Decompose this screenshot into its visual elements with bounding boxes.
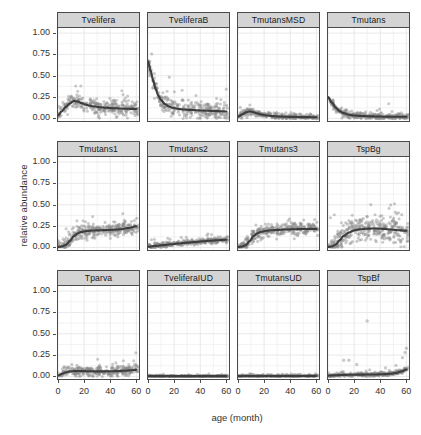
facet-plot-area bbox=[147, 28, 230, 122]
y-axis-tick-mark bbox=[53, 291, 56, 292]
x-axis-tick-mark bbox=[380, 380, 381, 383]
facet-strip-label: Tmutans2 bbox=[169, 144, 208, 154]
y-axis-tick-mark bbox=[53, 54, 56, 55]
facet-plot-area bbox=[237, 286, 320, 380]
scatter-points bbox=[328, 202, 409, 249]
facet-strip-label: TspBg bbox=[356, 144, 380, 154]
facet-strip-label: Tmutans bbox=[351, 15, 385, 25]
facet-strip-label: TmutansUD bbox=[255, 273, 302, 283]
x-axis-tick-label: 0 bbox=[137, 386, 159, 396]
y-axis-tick-mark bbox=[53, 334, 56, 335]
y-axis-tick-label: 0.00 bbox=[10, 242, 50, 251]
y-axis-tick-label: 0.25 bbox=[10, 221, 50, 230]
facet-plot-area bbox=[57, 28, 140, 122]
x-axis-tick-label: 40 bbox=[189, 386, 211, 396]
x-axis-tick-label: 40 bbox=[279, 386, 301, 396]
y-axis-tick-label: 1.00 bbox=[10, 157, 50, 166]
x-axis-tick-label: 0 bbox=[317, 386, 339, 396]
facet-panel-tmutans3: Tmutans3 bbox=[237, 141, 320, 251]
facet-strip-tmutans1: Tmutans1 bbox=[57, 141, 140, 157]
y-axis-tick-mark bbox=[53, 226, 56, 227]
x-axis-column-2: 0204060 bbox=[237, 380, 320, 400]
facet-panel-tspbf: TspBf bbox=[327, 270, 410, 380]
facet-strip-label: TveliferaB bbox=[169, 15, 209, 25]
facet-plot-area bbox=[57, 286, 140, 380]
scatter-points bbox=[58, 84, 139, 119]
facet-panel-tmutans1: Tmutans1 bbox=[57, 141, 140, 251]
facet-panel-tveliferab: TveliferaB bbox=[147, 12, 230, 122]
facet-plot-area bbox=[327, 28, 410, 122]
y-axis-tick-label: 0.00 bbox=[10, 371, 50, 380]
x-axis-tick-mark bbox=[354, 380, 355, 383]
facet-strip-tmutans2: Tmutans2 bbox=[147, 141, 230, 157]
facet-strip-tspbg: TspBg bbox=[327, 141, 410, 157]
x-axis-tick-mark bbox=[58, 380, 59, 383]
x-axis-tick-mark bbox=[406, 380, 407, 383]
x-axis-column-1: 0204060 bbox=[147, 380, 230, 400]
facet-strip-tveliferab: TveliferaB bbox=[147, 12, 230, 28]
y-axis-tick-label: 0.25 bbox=[10, 350, 50, 359]
x-axis-tick-label: 0 bbox=[47, 386, 69, 396]
y-axis-tick-label: 1.00 bbox=[10, 28, 50, 37]
facet-plot-area bbox=[327, 286, 410, 380]
facet-panel-tmutansmsd: TmutansMSD bbox=[237, 12, 320, 122]
facet-strip-label: Tvelifera bbox=[82, 15, 116, 25]
x-axis-tick-label: 20 bbox=[163, 386, 185, 396]
y-axis-tick-mark bbox=[53, 33, 56, 34]
y-axis-tick-mark bbox=[53, 355, 56, 356]
y-axis-tick-mark bbox=[53, 183, 56, 184]
x-axis-title: age (month) bbox=[57, 412, 417, 423]
facet-panel-tveliferaiud: TveliferaIUD bbox=[147, 270, 230, 380]
y-axis-tick-mark bbox=[53, 162, 56, 163]
facet-scatter-figure: relative abundance age (month) 0.000.250… bbox=[0, 0, 421, 435]
y-axis-tick-label: 0.25 bbox=[10, 92, 50, 101]
x-axis-tick-mark bbox=[290, 380, 291, 383]
x-axis-tick-label: 40 bbox=[99, 386, 121, 396]
scatter-points bbox=[328, 319, 409, 378]
facet-panel-tparva: Tparva bbox=[57, 270, 140, 380]
y-axis-tick-mark bbox=[53, 247, 56, 248]
y-axis-tick-label: 0.75 bbox=[10, 178, 50, 187]
facet-strip-label: Tmutans3 bbox=[259, 144, 298, 154]
facet-strip-tspbf: TspBf bbox=[327, 270, 410, 286]
x-axis-tick-mark bbox=[238, 380, 239, 383]
facet-plot-area bbox=[57, 157, 140, 251]
facet-plot-area bbox=[327, 157, 410, 251]
y-axis-tick-mark bbox=[53, 97, 56, 98]
x-axis-column-3: 0204060 bbox=[327, 380, 410, 400]
facet-strip-label: TmutansMSD bbox=[252, 15, 306, 25]
x-axis-tick-label: 20 bbox=[253, 386, 275, 396]
y-axis-tick-mark bbox=[53, 76, 56, 77]
x-axis-tick-mark bbox=[84, 380, 85, 383]
facet-strip-label: Tparva bbox=[85, 273, 112, 283]
facet-strip-label: TveliferaIUD bbox=[164, 273, 213, 283]
y-axis-tick-label: 0.00 bbox=[10, 113, 50, 122]
facet-strip-tmutansmsd: TmutansMSD bbox=[237, 12, 320, 28]
x-axis-tick-mark bbox=[328, 380, 329, 383]
scatter-points bbox=[238, 217, 319, 249]
facet-plot-area bbox=[237, 157, 320, 251]
facet-plot-area bbox=[147, 157, 230, 251]
x-axis-tick-mark bbox=[316, 380, 317, 383]
facet-panel-tmutans: Tmutans bbox=[327, 12, 410, 122]
y-axis-tick-label: 0.75 bbox=[10, 307, 50, 316]
facet-strip-tmutans: Tmutans bbox=[327, 12, 410, 28]
x-axis-tick-label: 20 bbox=[73, 386, 95, 396]
facet-strip-tmutans3: Tmutans3 bbox=[237, 141, 320, 157]
x-axis-tick-mark bbox=[264, 380, 265, 383]
facet-plot-area bbox=[237, 28, 320, 122]
x-axis-tick-mark bbox=[110, 380, 111, 383]
y-axis-tick-mark bbox=[53, 118, 56, 119]
y-axis-tick-label: 0.50 bbox=[10, 200, 50, 209]
y-axis-tick-mark bbox=[53, 376, 56, 377]
x-axis-tick-mark bbox=[174, 380, 175, 383]
facet-strip-tveliferaiud: TveliferaIUD bbox=[147, 270, 230, 286]
facet-strip-label: TspBf bbox=[358, 273, 380, 283]
x-axis-tick-mark bbox=[136, 380, 137, 383]
facet-strip-tparva: Tparva bbox=[57, 270, 140, 286]
facet-plot-area bbox=[147, 286, 230, 380]
x-axis-tick-mark bbox=[200, 380, 201, 383]
x-axis-tick-label: 0 bbox=[227, 386, 249, 396]
x-axis-column-0: 0204060 bbox=[57, 380, 140, 400]
facet-strip-label: Tmutans1 bbox=[79, 144, 118, 154]
